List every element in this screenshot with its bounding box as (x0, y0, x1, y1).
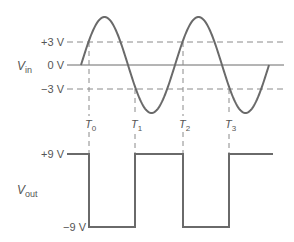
plus-9v-label: +9 V (41, 148, 65, 160)
zero-volt-label: 0 V (47, 59, 64, 71)
vin-axis-label: Vin (17, 59, 32, 75)
minus-3v-label: −3 V (41, 83, 65, 95)
vout-axis-label: Vout (17, 183, 38, 199)
minus-9v-label: −9 V (63, 221, 87, 233)
plus-3v-label: +3 V (41, 36, 65, 48)
vout-square-wave (67, 154, 273, 227)
comparator-waveform-diagram: +3 V 0 V −3 V Vin +9 V −9 V Vout T0 T1 T… (0, 0, 294, 242)
